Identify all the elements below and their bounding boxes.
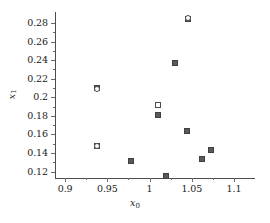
- y-axis-title: x1: [6, 74, 19, 114]
- y-tick-minor: [53, 144, 55, 145]
- data-point: [155, 102, 161, 108]
- x-tick-label: 0.95: [87, 183, 127, 194]
- data-point: [163, 173, 169, 179]
- scatter-plot-figure: 0.90.9511.051.10.120.140.160.180.20.220.…: [0, 0, 270, 223]
- data-point: [208, 147, 214, 153]
- y-tick-minor: [53, 162, 55, 163]
- data-point: [184, 128, 190, 134]
- y-tick: [51, 134, 55, 135]
- y-tick-label: 0.14: [8, 147, 48, 158]
- x-tick-minor: [213, 178, 214, 180]
- x-tick-label: 1: [130, 183, 170, 194]
- x-tick-minor: [128, 178, 129, 180]
- plot-area: [55, 12, 245, 178]
- y-tick: [51, 60, 55, 61]
- y-tick: [51, 23, 55, 24]
- y-tick: [51, 42, 55, 43]
- x-axis-title-subscript: 0: [135, 202, 139, 210]
- x-tick-label: 0.9: [45, 183, 85, 194]
- data-point: [94, 86, 100, 92]
- y-tick-minor: [53, 125, 55, 126]
- y-axis-title-base: x: [6, 94, 17, 99]
- y-tick-label: 0.16: [8, 128, 48, 139]
- x-tick: [65, 178, 66, 182]
- y-tick-minor: [53, 51, 55, 52]
- y-tick: [51, 79, 55, 80]
- x-tick-label: 1.05: [172, 183, 212, 194]
- y-tick-minor: [53, 107, 55, 108]
- y-tick: [51, 172, 55, 173]
- y-tick-label: 0.24: [8, 54, 48, 65]
- data-point: [128, 158, 134, 164]
- data-point: [172, 60, 178, 66]
- y-tick: [51, 116, 55, 117]
- y-axis-line: [55, 12, 56, 178]
- y-tick-minor: [53, 88, 55, 89]
- y-tick-label: 0.26: [8, 36, 48, 47]
- y-tick: [51, 97, 55, 98]
- x-tick: [150, 178, 151, 182]
- x-tick: [192, 178, 193, 182]
- x-axis-line: [55, 178, 255, 179]
- x-tick: [107, 178, 108, 182]
- data-point: [94, 143, 100, 149]
- y-tick: [51, 153, 55, 154]
- data-point: [199, 156, 205, 162]
- data-point: [185, 15, 191, 21]
- x-axis-title: x0: [0, 197, 270, 210]
- y-tick-minor: [53, 32, 55, 33]
- x-tick-label: 1.1: [214, 183, 254, 194]
- x-tick-minor: [86, 178, 87, 180]
- x-tick: [234, 178, 235, 182]
- x-tick-minor: [171, 178, 172, 180]
- y-tick-label: 0.12: [8, 166, 48, 177]
- y-axis-title-subscript: 1: [10, 89, 18, 93]
- y-tick-label: 0.28: [8, 17, 48, 28]
- data-point: [155, 112, 161, 118]
- y-tick-minor: [53, 69, 55, 70]
